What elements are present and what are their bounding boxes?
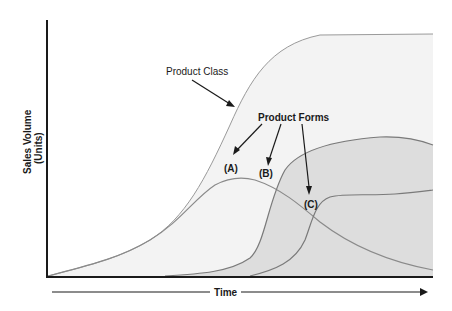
arrow-head-icon: [420, 288, 428, 296]
y-axis-label-line1: Sales Volume: [22, 109, 33, 174]
product-class-pointer: [192, 80, 230, 104]
y-axis-label-line2: (Units): [33, 132, 44, 164]
label-b: (B): [259, 168, 273, 179]
product-forms-label: Product Forms: [258, 112, 330, 123]
product-class-label: Product Class: [166, 66, 228, 77]
label-c: (C): [304, 199, 318, 210]
product-life-cycle-diagram: Time Sales Volume (Units) Product Class …: [0, 0, 452, 311]
x-axis-label: Time: [214, 287, 238, 298]
label-a: (A): [224, 163, 238, 174]
arrow-head-icon: [226, 100, 235, 107]
